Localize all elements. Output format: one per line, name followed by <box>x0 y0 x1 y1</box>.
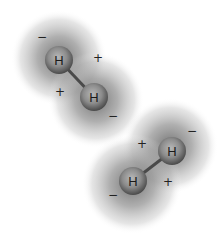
negative-charge: − <box>37 30 47 44</box>
atom-label: H <box>54 53 63 68</box>
negative-charge: − <box>108 109 118 123</box>
atom-label: H <box>167 144 176 159</box>
positive-charge: + <box>163 175 173 189</box>
hydrogen-molecules-diagram: H H − + + − H H + − + − <box>0 0 224 240</box>
positive-charge: + <box>55 85 65 99</box>
positive-charge: + <box>137 137 147 151</box>
negative-charge: − <box>187 124 197 138</box>
negative-charge: − <box>108 188 118 202</box>
atom-label: H <box>89 90 98 105</box>
positive-charge: + <box>93 51 103 65</box>
atom-label: H <box>128 174 137 189</box>
molecule-top: H H − + + − <box>11 10 144 148</box>
